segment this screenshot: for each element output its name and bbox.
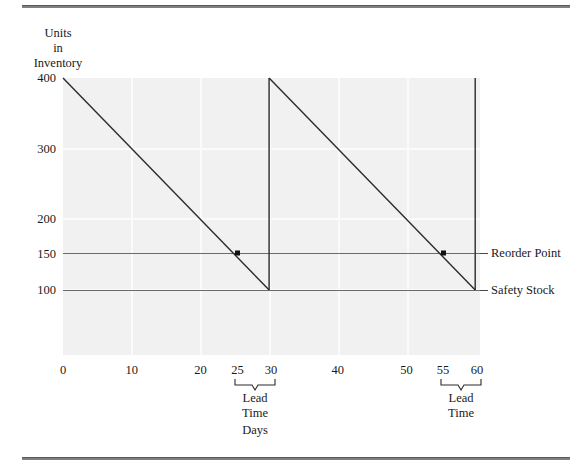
- gridline-x-40: [338, 78, 340, 355]
- reorder-point-leader: [480, 253, 488, 254]
- lead-time-label-1-line-2: Time: [217, 406, 293, 421]
- y-tick-150: 150: [10, 247, 56, 262]
- gridline-y-200: [63, 218, 480, 220]
- x-tick-60: 60: [457, 363, 497, 378]
- lead-time-brace-1: [217, 378, 293, 391]
- y-tick-100: 100: [10, 283, 56, 298]
- reorder-point-label: Reorder Point: [491, 246, 561, 261]
- bottom-divider: [22, 457, 570, 460]
- gridline-x-20: [200, 78, 202, 355]
- y-axis-title-line-1: Units: [12, 26, 104, 41]
- x-axis-label: Days: [215, 423, 295, 438]
- lead-time-bracket-group-2: Lead Time: [423, 378, 499, 421]
- gridline-y-300: [63, 148, 480, 150]
- reorder-point-line: [63, 253, 480, 254]
- top-divider: [22, 5, 570, 8]
- y-tick-300: 300: [10, 142, 56, 157]
- lead-time-bracket-group-1: Lead Time: [217, 378, 293, 421]
- lead-time-label-2-line-2: Time: [423, 406, 499, 421]
- safety-stock-label: Safety Stock: [491, 283, 555, 298]
- y-axis-title-line-3: Inventory: [12, 56, 104, 71]
- gridline-x-50: [407, 78, 409, 355]
- x-tick-40: 40: [318, 363, 358, 378]
- lead-time-label-2-line-1: Lead: [423, 391, 499, 406]
- safety-stock-leader: [480, 290, 488, 291]
- lead-time-label-1-line-1: Lead: [217, 391, 293, 406]
- y-tick-200: 200: [10, 212, 56, 227]
- safety-stock-line: [63, 290, 480, 291]
- x-tick-0: 0: [43, 363, 83, 378]
- x-tick-50: 50: [387, 363, 427, 378]
- gridline-x-10: [131, 78, 133, 355]
- lead-time-brace-2: [423, 378, 499, 391]
- gridline-x-30: [269, 78, 271, 355]
- y-axis-title-line-2: in: [12, 41, 104, 56]
- y-axis-title: Units in Inventory: [12, 26, 104, 71]
- x-tick-10: 10: [112, 363, 152, 378]
- x-tick-20: 20: [180, 363, 220, 378]
- y-tick-400: 400: [10, 71, 56, 86]
- plot-area: [63, 78, 480, 355]
- x-tick-30: 30: [251, 363, 291, 378]
